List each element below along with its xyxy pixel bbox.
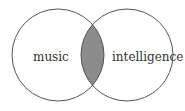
label-music: music <box>33 50 69 64</box>
venn-diagram: music intelligence <box>0 0 185 111</box>
label-intelligence: intelligence <box>112 50 183 64</box>
